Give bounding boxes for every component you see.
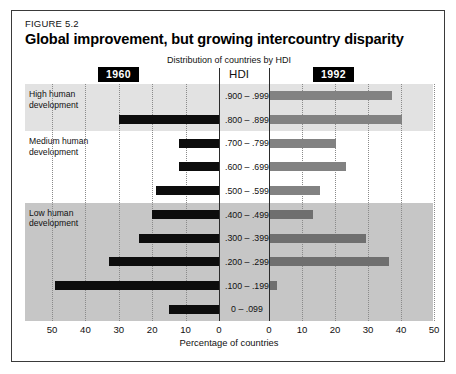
hdi-category-label: .400 – .499	[219, 210, 275, 220]
hdi-category-label: .300 – .399	[219, 233, 275, 243]
x-tick-left-10: 10	[175, 324, 197, 335]
figure-title: Global improvement, but growing intercou…	[25, 31, 404, 47]
bar-1960-8	[55, 281, 219, 290]
x-tick-left-40: 40	[74, 324, 96, 335]
bar-1960-7	[109, 257, 219, 266]
x-tick-right-50: 50	[423, 324, 445, 335]
gridline-right-50	[434, 84, 436, 321]
series-tag-1960: 1960	[98, 67, 139, 82]
bar-1960-6	[139, 234, 219, 243]
bar-1960-5	[152, 210, 219, 219]
hdi-category-label: .900 – .999	[219, 91, 275, 101]
bar-1960-4	[156, 186, 219, 195]
bar-1960-1	[119, 115, 219, 124]
hdi-category-label: .700 – .799	[219, 138, 275, 148]
x-tick-left-20: 20	[141, 324, 163, 335]
x-tick-right-30: 30	[357, 324, 379, 335]
chart-subtitle: Distribution of countries by HDI	[12, 55, 446, 65]
bar-1992-5	[270, 210, 313, 219]
bar-1960-3	[179, 162, 219, 171]
plot-area: High human developmentMedium human devel…	[25, 84, 433, 321]
hdi-category-label: .800 – .899	[219, 115, 275, 125]
x-tick-right-0: 0	[258, 324, 280, 335]
hdi-category-label: .600 – .699	[219, 162, 275, 172]
hdi-category-label: 0 – .099	[219, 304, 275, 314]
x-tick-right-20: 20	[324, 324, 346, 335]
hdi-category-label: .500 – .599	[219, 186, 275, 196]
bar-1960-2	[179, 139, 219, 148]
figure-frame: FIGURE 5.2 Global improvement, but growi…	[11, 10, 445, 362]
x-axis: Percentage of countries 5040302010001020…	[25, 321, 433, 351]
x-tick-left-50: 50	[41, 324, 63, 335]
bar-1992-6	[270, 234, 366, 243]
x-tick-right-10: 10	[291, 324, 313, 335]
band-label: Medium human development	[29, 136, 88, 157]
hdi-category-label: .200 – .299	[219, 257, 275, 267]
x-tick-right-40: 40	[390, 324, 412, 335]
bar-1992-7	[270, 257, 389, 266]
x-tick-left-0: 0	[208, 324, 230, 335]
bar-1992-0	[270, 91, 392, 100]
figure-number: FIGURE 5.2	[25, 18, 79, 29]
x-axis-title: Percentage of countries	[25, 337, 433, 348]
bar-1992-1	[270, 115, 402, 124]
x-tick-left-30: 30	[108, 324, 130, 335]
bar-1992-3	[270, 162, 346, 171]
bar-1960-9	[169, 305, 219, 314]
hdi-category-label: .100 – .199	[219, 281, 275, 291]
gridline-left-50	[52, 84, 54, 321]
bar-1992-2	[270, 139, 336, 148]
series-tag-1992: 1992	[313, 67, 354, 82]
bar-1992-4	[270, 186, 320, 195]
